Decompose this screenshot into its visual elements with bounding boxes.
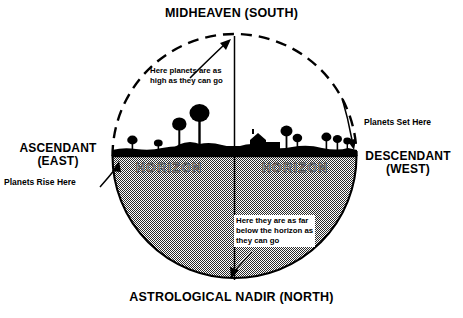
planets-rise-callout: Planets Rise Here — [4, 178, 76, 188]
descendant-name: DESCENDANT — [356, 150, 460, 163]
midheaven-label: MIDHEAVEN (SOUTH) — [0, 6, 463, 20]
lower-note-line-1: Here they are as far — [236, 216, 313, 226]
fence-structure — [218, 146, 244, 151]
descendant-label: DESCENDANT (WEST) — [356, 150, 460, 177]
horizon-label-right: HORIZON — [262, 161, 329, 175]
upper-note-line-1: Here planets are as — [150, 66, 223, 76]
lower-note-line-2: below the horizon as — [236, 226, 313, 236]
planets-set-callout: Planets Set Here — [364, 118, 431, 128]
astrology-horizon-diagram: HORIZON HORIZON MIDHEAVEN (SOUTH) ASTROL… — [0, 0, 463, 318]
ascendant-name: ASCENDANT — [8, 142, 108, 155]
house-silhouette — [250, 129, 280, 150]
horizon-label-left: HORIZON — [136, 161, 203, 175]
lower-note: Here they are as far below the horizon a… — [234, 215, 315, 247]
ascendant-label: ASCENDANT (EAST) — [8, 142, 108, 169]
lower-note-line-3: they can go — [236, 236, 313, 246]
nadir-label: ASTROLOGICAL NADIR (NORTH) — [0, 290, 463, 304]
ascendant-direction: (EAST) — [8, 155, 108, 168]
upper-note-line-2: high as they can go — [150, 76, 223, 86]
descendant-direction: (WEST) — [356, 163, 460, 176]
upper-note: Here planets are as high as they can go — [150, 66, 223, 86]
